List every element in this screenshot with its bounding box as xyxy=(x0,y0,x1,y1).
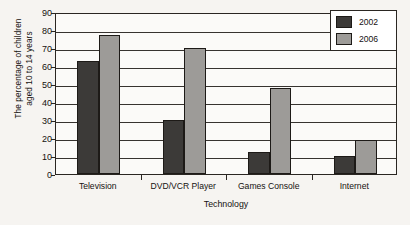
y-tick-label-50: 50 xyxy=(12,80,52,90)
y-axis-title: The percentage of children aged 10 to 14… xyxy=(14,0,35,149)
bar-2006-internet xyxy=(355,140,377,174)
y-tick-label-70: 70 xyxy=(12,44,52,54)
x-category-label-dvd-vcr-player: DVD/VCR Player xyxy=(151,181,216,191)
bar-2006-television xyxy=(99,35,121,174)
y-tick-label-30: 30 xyxy=(12,116,52,126)
bar-2002-dvd-vcr-player xyxy=(163,120,185,174)
y-axis-title-line-1: The percentage of children xyxy=(14,0,25,149)
x-tick-mark-3 xyxy=(312,175,313,180)
legend-label-2002: 2002 xyxy=(359,17,378,27)
legend-item-2002: 2002 xyxy=(336,15,392,29)
x-category-label-games-console: Games Console xyxy=(238,181,300,191)
bar-2002-games-console xyxy=(248,152,270,174)
bar-2002-television xyxy=(77,61,99,174)
y-axis-title-line-2: aged 10 to 14 years xyxy=(24,0,35,149)
y-tick-label-20: 20 xyxy=(12,134,52,144)
legend-swatch-2002 xyxy=(336,16,352,28)
y-tick-label-0: 0 xyxy=(12,170,52,180)
y-tick-label-10: 10 xyxy=(12,152,52,162)
y-tick-mark-0 xyxy=(51,175,55,176)
y-tick-label-60: 60 xyxy=(12,62,52,72)
bar-chart: The percentage of children aged 10 to 14… xyxy=(0,0,410,225)
legend: 2002 2006 xyxy=(330,10,397,51)
bar-2006-games-console xyxy=(270,88,292,174)
x-tick-mark-2 xyxy=(226,175,227,180)
y-tick-label-40: 40 xyxy=(12,98,52,108)
x-category-label-internet: Internet xyxy=(340,181,369,191)
bar-2006-dvd-vcr-player xyxy=(184,48,206,174)
y-tick-label-80: 80 xyxy=(12,26,52,36)
bar-2002-internet xyxy=(334,156,356,174)
x-axis-title: Technology xyxy=(55,199,397,209)
legend-swatch-2006 xyxy=(336,33,352,45)
x-category-label-television: Television xyxy=(79,181,117,191)
y-tick-label-90: 90 xyxy=(12,8,52,18)
x-tick-mark-1 xyxy=(141,175,142,180)
legend-label-2006: 2006 xyxy=(359,34,378,44)
legend-item-2006: 2006 xyxy=(336,32,392,46)
